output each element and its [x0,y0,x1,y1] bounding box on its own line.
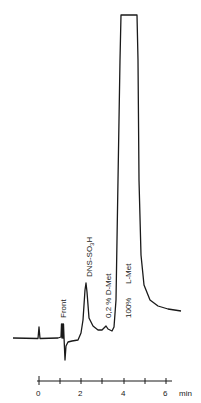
x-tick-0: 0 [36,389,41,398]
chromatogram-figure: 0 2 4 6 min Front DNS-SO3H 0,2 % D-Met 1… [0,0,201,403]
label-100-percent: 100% [124,298,133,318]
label-dns-so3h: DNS-SO3H [85,237,95,277]
x-axis-unit: min [179,389,192,398]
x-tick-2: 2 [78,389,83,398]
chromatogram-trace [13,15,181,360]
label-front: Front [59,299,68,318]
label-d-met: 0,2 % D-Met [104,273,113,318]
x-tick-4: 4 [121,389,126,398]
x-tick-6: 6 [163,389,168,398]
label-l-met: L-Met [124,263,133,284]
